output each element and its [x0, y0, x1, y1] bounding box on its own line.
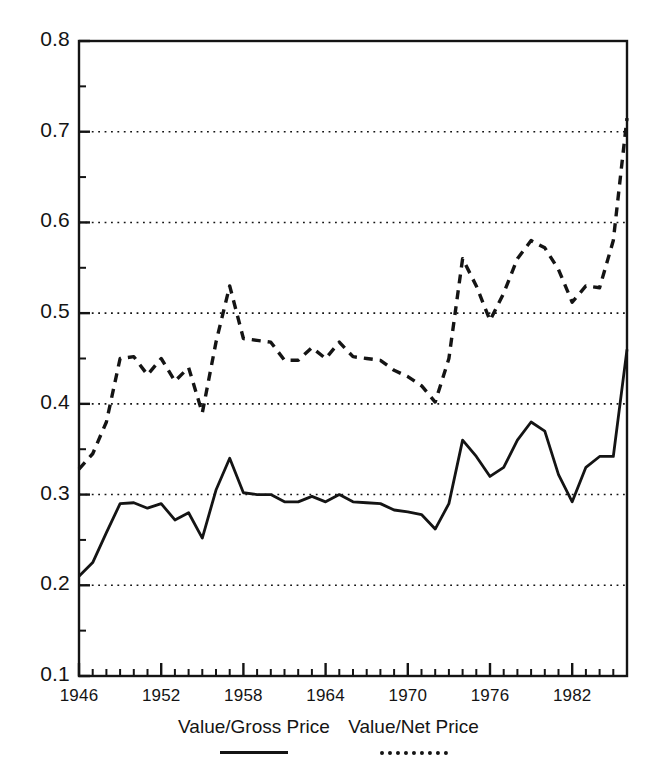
- legend-swatch-dashed-line: [380, 751, 448, 760]
- legend-label-gross: Value/Gross Price: [178, 716, 330, 738]
- chart-figure: 0.80.70.60.50.40.30.20.1 194619521958196…: [0, 0, 657, 783]
- legend-swatch-solid-line: [220, 751, 288, 759]
- legend-entry-net: Value/Net Price: [348, 716, 479, 760]
- x-tick-label: 1958: [208, 686, 278, 706]
- y-tick-label: 0.6: [8, 208, 70, 232]
- x-tick-label: 1946: [44, 686, 114, 706]
- y-axis-ticks: [79, 41, 90, 676]
- y-tick-label: 0.2: [8, 571, 70, 595]
- legend-entry-gross: Value/Gross Price: [178, 716, 330, 759]
- y-tick-label: 0.4: [8, 390, 70, 414]
- y-tick-label: 0.1: [8, 662, 70, 686]
- legend-label-net: Value/Net Price: [348, 716, 479, 738]
- x-tick-label: 1976: [455, 686, 525, 706]
- y-tick-label: 0.7: [8, 118, 70, 142]
- x-tick-label: 1970: [373, 686, 443, 706]
- line-chart-plot: [0, 0, 657, 783]
- x-tick-label: 1982: [537, 686, 607, 706]
- x-tick-label: 1952: [126, 686, 196, 706]
- series-line-gross-price: [79, 349, 627, 576]
- x-axis-ticks: [79, 663, 627, 676]
- series-line-net-price: [79, 118, 627, 469]
- y-tick-label: 0.5: [8, 299, 70, 323]
- chart-legend: Value/Gross Price Value/Net Price: [0, 716, 657, 760]
- y-tick-label: 0.3: [8, 481, 70, 505]
- y-tick-label: 0.8: [8, 27, 70, 51]
- x-tick-label: 1964: [291, 686, 361, 706]
